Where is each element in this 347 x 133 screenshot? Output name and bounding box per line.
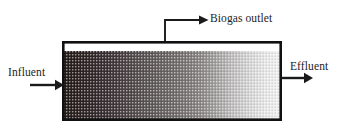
biogas-outlet-label: Biogas outlet (210, 12, 273, 25)
influent-label: Influent (8, 66, 46, 78)
effluent-label: Effluent (290, 60, 329, 72)
influent-flow (30, 80, 64, 90)
reactor-vessel (63, 42, 280, 119)
effluent-flow (281, 73, 313, 83)
diagram-canvas: Influent Effluent Biogas outlet (0, 0, 347, 133)
reactor-diagram: Influent Effluent Biogas outlet (0, 0, 347, 133)
biogas-outlet-pipe (165, 15, 209, 41)
sludge-bed (64, 51, 281, 120)
